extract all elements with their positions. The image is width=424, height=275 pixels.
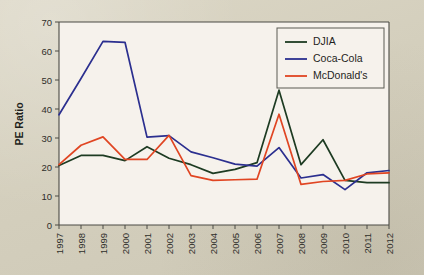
- y-tick-label: 60: [41, 46, 52, 57]
- x-tick-label: 2000: [120, 233, 131, 254]
- x-tick-label: 2010: [340, 233, 351, 254]
- y-tick-label: 50: [41, 75, 52, 86]
- x-tick-label: 1999: [98, 233, 109, 254]
- x-tick-label: 2007: [274, 233, 285, 254]
- x-tick-label: 2002: [164, 233, 175, 254]
- legend-label-mcdonald-s: McDonald's: [313, 69, 368, 81]
- x-axis-ticks: 1997199819992000200120022003200420052006…: [54, 225, 395, 254]
- chart-legend: DJIACoca-ColaMcDonald's: [277, 28, 384, 88]
- y-tick-label: 0: [47, 220, 52, 231]
- y-tick-label: 10: [41, 191, 52, 202]
- x-tick-label: 2004: [208, 233, 219, 254]
- y-tick-label: 30: [41, 133, 52, 144]
- x-tick-label: 1998: [76, 233, 87, 254]
- x-tick-label: 2009: [318, 233, 329, 254]
- x-tick-label: 2001: [142, 233, 153, 254]
- x-tick-label: 2005: [230, 233, 241, 254]
- legend-label-djia: DJIA: [313, 35, 336, 47]
- x-tick-label: 2011: [362, 233, 373, 253]
- x-tick-label: 2012: [384, 233, 395, 254]
- y-tick-label: 40: [41, 104, 52, 115]
- chart-canvas: 010203040506070 199719981999200020012002…: [0, 0, 424, 275]
- y-tick-label: 70: [41, 17, 52, 28]
- legend-label-coca-cola: Coca-Cola: [313, 52, 363, 64]
- x-tick-label: 1997: [54, 233, 65, 254]
- y-axis-title: PE Ratio: [13, 102, 25, 145]
- pe-ratio-line-chart: 010203040506070 199719981999200020012002…: [0, 0, 424, 275]
- y-axis-ticks: 010203040506070: [41, 17, 59, 231]
- x-tick-label: 2003: [186, 233, 197, 254]
- x-tick-label: 2008: [296, 233, 307, 254]
- y-tick-label: 20: [41, 162, 52, 173]
- x-tick-label: 2006: [252, 233, 263, 254]
